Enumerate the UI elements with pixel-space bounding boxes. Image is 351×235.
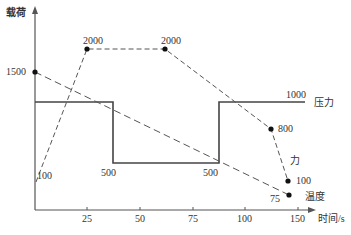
pressure-low-label-1: 500 [101,168,116,178]
force-start-label: 100 [37,171,52,181]
temperature-series [35,72,289,195]
force-peak-label-1: 2000 [83,36,103,46]
load-time-chart: 载荷 时间/s 25 50 75 100 150 1500 100 2000 2… [0,0,351,235]
pressure-low-label-2: 500 [203,168,218,178]
temp-end-label: 75 [270,194,280,204]
temperature-series-name: 温度 [305,192,325,202]
force-peak-label-2: 2000 [161,36,181,46]
x-tick-label: 50 [135,214,145,224]
pressure-series [35,102,305,163]
data-markers [32,46,291,197]
x-tick-label: 100 [237,214,252,224]
pressure-series-name: 压力 [314,98,334,108]
x-tick-label: 75 [188,214,198,224]
x-axis-arrow-icon [308,207,316,213]
x-tick-label: 150 [290,214,305,224]
force-series-name: 力 [290,156,300,166]
temp-start-label: 1500 [6,67,26,77]
force-end-label: 100 [296,176,311,186]
y-axis-arrow-icon [32,6,38,14]
pressure-high-label: 1000 [286,90,306,100]
y-axis-label: 载荷 [6,8,26,18]
force-series [36,49,288,182]
x-axis-label: 时间/s [318,214,345,224]
x-tick-label: 25 [82,214,92,224]
force-800-label: 800 [278,124,293,134]
